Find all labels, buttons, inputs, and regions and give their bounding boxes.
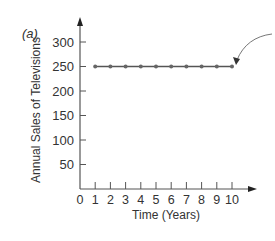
y-tick-label: 100 bbox=[52, 133, 74, 148]
x-tick-label: 5 bbox=[153, 193, 160, 207]
x-axis-arrow-icon bbox=[248, 186, 257, 192]
y-axis-arrow-icon bbox=[77, 17, 83, 26]
x-tick-label: 4 bbox=[137, 193, 144, 207]
data-point bbox=[108, 65, 112, 69]
x-tick-label: 3 bbox=[122, 193, 129, 207]
data-point bbox=[215, 65, 219, 69]
annotation-arrowhead-icon bbox=[233, 57, 240, 65]
data-point bbox=[230, 65, 234, 69]
x-tick-label: 10 bbox=[225, 193, 239, 207]
x-tick-label: 9 bbox=[213, 193, 220, 207]
y-axis-label: Annual Sales of Televisions bbox=[29, 37, 43, 183]
x-tick-label: 1 bbox=[92, 193, 99, 207]
y-ticks: 50100150200250300 bbox=[52, 35, 86, 173]
y-tick-label: 250 bbox=[52, 59, 74, 74]
y-tick-label: 150 bbox=[52, 108, 74, 123]
chart: (a) 50100150200250300 012345678910 Annua… bbox=[0, 0, 275, 241]
data-point bbox=[184, 65, 188, 69]
data-point bbox=[139, 65, 143, 69]
data-point bbox=[124, 65, 128, 69]
data-point bbox=[93, 65, 97, 69]
x-tick-label: 8 bbox=[198, 193, 205, 207]
data-point bbox=[200, 65, 204, 69]
y-tick-label: 200 bbox=[52, 84, 74, 99]
x-tick-label: 0 bbox=[77, 193, 84, 207]
x-tick-label: 6 bbox=[168, 193, 175, 207]
y-tick-label: 300 bbox=[52, 35, 74, 50]
x-ticks: 012345678910 bbox=[77, 182, 239, 207]
y-tick-label: 50 bbox=[60, 157, 74, 172]
annotation-arrow bbox=[237, 34, 272, 60]
x-tick-label: 2 bbox=[107, 193, 114, 207]
data-series bbox=[93, 65, 234, 69]
x-axis-label: Time (Years) bbox=[132, 208, 200, 222]
data-point bbox=[169, 65, 173, 69]
data-point bbox=[154, 65, 158, 69]
x-tick-label: 7 bbox=[183, 193, 190, 207]
